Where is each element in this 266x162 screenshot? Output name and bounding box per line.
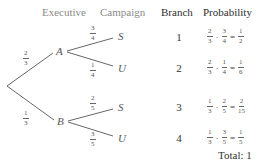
header-campaign: Campaign (100, 6, 145, 18)
probability-expression: 13 · 25 = 215 (207, 98, 245, 115)
node-s-upper: S (118, 31, 124, 42)
edge-label-b-s: 2 5 (90, 95, 96, 112)
edge-label-a-u: 1 4 (90, 62, 96, 79)
probability-expression: 23 · 14 = 16 (207, 59, 244, 76)
edge-root-a (7, 53, 53, 86)
node-u-upper: U (118, 63, 126, 74)
branch-number: 2 (173, 62, 185, 74)
edge-label-root-a: 2 3 (23, 50, 29, 67)
edge-label-a-s: 3 4 (90, 25, 96, 42)
edge-root-b (7, 86, 54, 120)
node-s-lower: S (118, 102, 124, 113)
node-u-lower: U (118, 133, 126, 144)
branch-number: 3 (173, 101, 185, 113)
total-label: Total: 1 (218, 149, 252, 161)
header-executive: Executive (42, 6, 86, 18)
node-a: A (56, 46, 63, 57)
node-b: B (57, 116, 64, 127)
header-probability: Probability (203, 6, 252, 18)
header-branch: Branch (161, 6, 193, 18)
branch-number: 4 (173, 132, 185, 144)
branch-number: 1 (173, 31, 185, 43)
edge-label-root-b: 1 3 (23, 110, 29, 127)
probability-expression: 23 · 34 = 12 (207, 28, 244, 45)
edge-label-b-u: 3 5 (90, 131, 96, 148)
probability-expression: 13 · 35 = 15 (207, 129, 244, 146)
